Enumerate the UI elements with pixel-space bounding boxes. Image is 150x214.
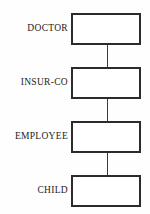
node-insur-co[interactable]: INSUR-CO bbox=[0, 67, 150, 99]
node-doctor[interactable]: DOCTOR bbox=[0, 13, 150, 45]
node-box-employee[interactable] bbox=[71, 121, 141, 153]
node-employee[interactable]: EMPLOYEE bbox=[0, 121, 150, 153]
node-child[interactable]: CHILD bbox=[0, 175, 150, 207]
node-box-doctor[interactable] bbox=[71, 13, 141, 45]
node-label-employee: EMPLOYEE bbox=[0, 132, 71, 142]
connector-employee-child bbox=[107, 153, 108, 175]
node-box-insur-co[interactable] bbox=[71, 67, 141, 99]
node-label-doctor: DOCTOR bbox=[0, 24, 71, 34]
diagram-canvas: DOCTOR INSUR-CO EMPLOYEE CHILD bbox=[0, 0, 150, 214]
node-box-child[interactable] bbox=[71, 175, 141, 207]
node-label-child: CHILD bbox=[0, 186, 71, 196]
connector-doctor-insurco bbox=[107, 45, 108, 67]
connector-insurco-employee bbox=[107, 99, 108, 121]
node-label-insur-co: INSUR-CO bbox=[0, 78, 71, 88]
